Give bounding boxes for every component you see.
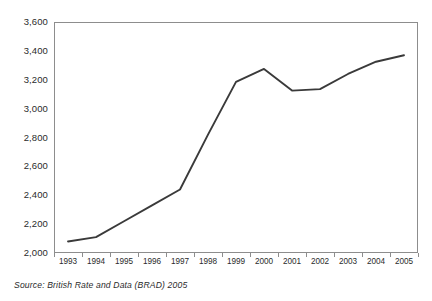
chart-figure: 2,0002,2002,4002,6002,8003,0003,2003,400…: [0, 0, 432, 301]
y-tick-label: 2,000: [0, 248, 48, 258]
x-axis: 1993199419951996199719981999200020012002…: [54, 257, 418, 271]
y-tick-label: 2,200: [0, 219, 48, 229]
x-tick-label: 2004: [362, 257, 390, 267]
x-tick-label: 2002: [306, 257, 334, 267]
y-axis: 2,0002,2002,4002,6002,8003,0003,2003,400…: [0, 0, 48, 301]
x-tick-label: 1994: [82, 257, 110, 267]
y-tick-label: 3,000: [0, 104, 48, 114]
x-tick-label: 2005: [390, 257, 418, 267]
x-tick-label: 1999: [222, 257, 250, 267]
x-tick-label: 1995: [110, 257, 138, 267]
x-tick-label: 1997: [166, 257, 194, 267]
y-tick-label: 2,600: [0, 161, 48, 171]
source-note: Source: British Rate and Data (BRAD) 200…: [14, 280, 187, 290]
x-tick-label: 1993: [54, 257, 82, 267]
y-tick-label: 3,200: [0, 75, 48, 85]
y-tick-label: 3,600: [0, 17, 48, 27]
x-tick-mark: [418, 253, 419, 257]
y-tick-label: 3,400: [0, 46, 48, 56]
data-series-line: [54, 22, 418, 253]
x-tick-label: 1998: [194, 257, 222, 267]
x-tick-label: 2000: [250, 257, 278, 267]
x-tick-label: 2003: [334, 257, 362, 267]
series-polyline: [68, 55, 404, 241]
y-tick-label: 2,400: [0, 190, 48, 200]
x-tick-label: 2001: [278, 257, 306, 267]
x-tick-label: 1996: [138, 257, 166, 267]
y-tick-label: 2,800: [0, 133, 48, 143]
